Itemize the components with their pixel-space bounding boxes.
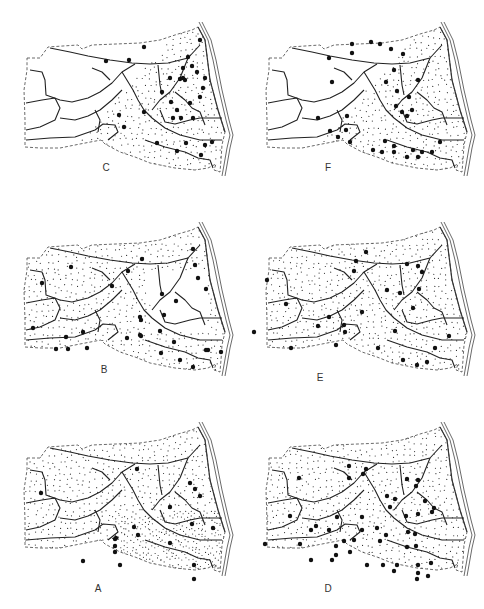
river (268, 498, 302, 530)
settlement-dot (193, 487, 197, 491)
settlement-dot (219, 350, 223, 354)
settlement-dot (298, 542, 302, 546)
settlement-dot (169, 100, 173, 104)
settlement-dot (361, 472, 365, 476)
settlement-dot (168, 541, 172, 545)
panel-label: B (94, 364, 114, 375)
settlement-dot (191, 116, 195, 120)
settlement-dot (336, 135, 340, 139)
river (152, 258, 188, 310)
panel-label: A (88, 583, 108, 594)
settlement-dot (344, 128, 348, 132)
stipple-shading (21, 429, 233, 580)
settlement-dot (184, 141, 188, 145)
settlement-dot (158, 329, 162, 333)
settlement-dot (400, 110, 404, 114)
basin-map (0, 400, 242, 600)
river (400, 65, 404, 95)
settlement-dot (415, 363, 419, 367)
settlement-dot (415, 577, 419, 581)
settlement-dot (417, 287, 421, 291)
river (302, 90, 364, 120)
settlement-dot (314, 524, 318, 528)
settlement-dot (365, 563, 369, 567)
settlement-dot (122, 125, 126, 129)
river (402, 310, 464, 324)
settlement-dot (405, 262, 409, 266)
settlement-dot (395, 563, 399, 567)
settlement-dot (380, 150, 384, 154)
panel-label: C (96, 162, 116, 173)
settlement-dot (172, 340, 176, 344)
settlement-dot (393, 497, 397, 501)
river (334, 268, 352, 280)
settlement-dot (334, 343, 338, 347)
settlement-dot (381, 563, 385, 567)
settlement-dot (155, 141, 159, 145)
settlement-dot (140, 257, 144, 261)
river (268, 98, 302, 130)
settlement-dot (413, 532, 417, 536)
settlement-dot (191, 247, 195, 251)
settlement-dot (198, 494, 202, 498)
settlement-dot (64, 335, 68, 339)
settlement-dot (405, 545, 409, 549)
river (30, 64, 135, 102)
river (92, 468, 110, 480)
settlement-dot (31, 326, 35, 330)
map-panel-e: E (242, 200, 484, 400)
settlement-dot (395, 89, 399, 93)
settlement-dot (330, 80, 334, 84)
settlement-dot (327, 315, 331, 319)
settlement-dot (179, 116, 183, 120)
settlement-dot (174, 299, 178, 303)
settlement-dot (378, 42, 382, 46)
settlement-dot (159, 351, 163, 355)
settlement-dot (113, 550, 117, 554)
settlement-dot (132, 525, 136, 529)
settlement-dot (354, 259, 358, 263)
settlement-dot (297, 476, 301, 480)
settlement-dot (188, 481, 192, 485)
settlement-dot (347, 476, 351, 480)
settlement-dot (81, 559, 85, 563)
settlement-dot (54, 347, 58, 351)
river (50, 45, 200, 64)
settlement-dot (198, 95, 202, 99)
river (364, 72, 464, 140)
settlement-dot (196, 276, 200, 280)
settlement-dot (162, 313, 166, 317)
settlement-dot (188, 101, 192, 105)
settlement-dot (384, 533, 388, 537)
settlement-dot (392, 68, 396, 72)
settlement-dot (263, 542, 267, 546)
settlement-dot (411, 306, 415, 310)
settlement-dot (345, 114, 349, 118)
river (26, 324, 118, 340)
settlement-dot (369, 40, 373, 44)
river (122, 472, 222, 540)
settlement-dot (81, 330, 85, 334)
settlement-dot (203, 143, 207, 147)
settlement-dot (192, 577, 196, 581)
basin-map (242, 200, 484, 400)
settlement-dot (118, 563, 122, 567)
map-panel-b: B (0, 200, 242, 400)
settlement-dot (104, 59, 108, 63)
settlement-dot (66, 347, 70, 351)
panel-label: D (318, 583, 338, 594)
settlement-dot (175, 108, 179, 112)
settlement-dot (352, 269, 356, 273)
river (302, 290, 364, 320)
settlement-dot (405, 155, 409, 159)
settlement-dot (265, 278, 269, 282)
settlement-dot (416, 571, 420, 575)
settlement-dot (414, 544, 418, 548)
river (60, 90, 122, 120)
settlement-dot (342, 323, 346, 327)
settlement-dot (416, 155, 420, 159)
basin-map (0, 0, 242, 200)
settlement-dot (384, 80, 388, 84)
settlement-dot (309, 528, 313, 532)
river (26, 524, 118, 540)
